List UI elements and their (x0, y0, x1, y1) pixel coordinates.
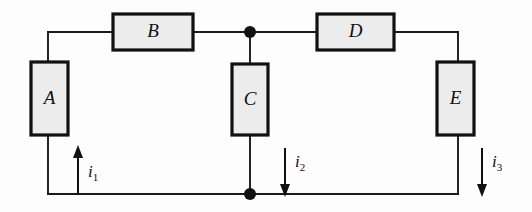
component-a-label: A (42, 87, 56, 108)
current-label-i1: i1 (88, 162, 98, 183)
current-arrow-group: i1 i2 i3 (73, 145, 503, 197)
circuit-diagram-figure: A B C D E (0, 0, 532, 212)
component-e-label: E (449, 87, 462, 108)
junction-dot-top (244, 26, 256, 38)
current-arrow-i2: i2 (280, 148, 305, 197)
component-b-label: B (147, 20, 159, 41)
component-c[interactable]: C (232, 64, 268, 135)
current-label-i3: i3 (492, 152, 503, 173)
component-a[interactable]: A (31, 62, 68, 135)
current-arrow-i3: i3 (477, 148, 503, 197)
current-arrow-i2-head (280, 184, 290, 197)
component-c-label: C (244, 88, 257, 109)
component-d[interactable]: D (317, 14, 394, 50)
current-arrow-i1-head (73, 145, 83, 158)
component-b[interactable]: B (113, 14, 193, 50)
current-arrow-i3-head (477, 184, 487, 197)
junction-dot-bottom (244, 188, 256, 200)
circuit-svg: A B C D E (0, 0, 532, 212)
component-e[interactable]: E (437, 62, 474, 135)
current-label-i2: i2 (295, 152, 305, 173)
component-d-label: D (348, 20, 363, 41)
current-arrow-i1: i1 (73, 145, 98, 194)
